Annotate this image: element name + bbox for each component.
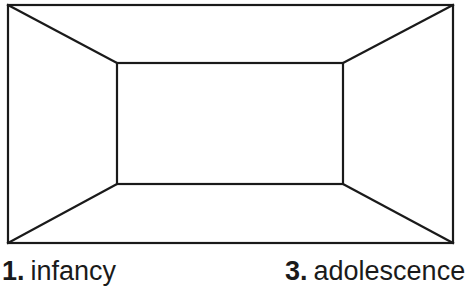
edge-bottom-left (8, 184, 117, 243)
label-number: 3. (285, 256, 308, 286)
label-infancy: 1.infancy (2, 256, 116, 286)
label-number: 1. (2, 256, 25, 286)
back-wall (117, 63, 343, 184)
label-text: infancy (31, 256, 117, 286)
edge-top-right (343, 5, 453, 63)
edge-bottom-right (343, 184, 453, 243)
edge-top-left (8, 5, 117, 63)
label-text: adolescence (314, 256, 465, 286)
label-adolescence: 3.adolescence (285, 256, 465, 286)
perspective-room-diagram (0, 0, 456, 250)
